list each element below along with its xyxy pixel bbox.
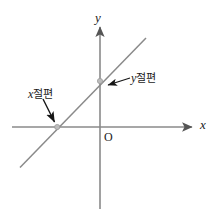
x-intercept-marker [55, 124, 60, 129]
x-intercept-word: 절편 [33, 88, 53, 101]
intercept-diagram: y x O x절편 y절편 [0, 0, 219, 223]
x-axis-label: x [200, 118, 206, 131]
coordinate-plane-svg [0, 0, 219, 223]
y-intercept-leader [108, 78, 130, 85]
origin-label: O [104, 131, 113, 143]
line-graph [20, 38, 146, 168]
y-intercept-label: y절편 [131, 72, 156, 84]
y-intercept-marker [97, 78, 102, 83]
intercept-markers [55, 78, 103, 129]
y-axis-label: y [95, 11, 101, 24]
x-intercept-leader [43, 99, 55, 122]
x-intercept-label: x절편 [28, 88, 53, 100]
y-intercept-word: 절편 [136, 72, 156, 85]
plotted-line [20, 38, 146, 168]
y-intercept-arrow [108, 78, 130, 85]
x-intercept-arrow [43, 99, 55, 122]
